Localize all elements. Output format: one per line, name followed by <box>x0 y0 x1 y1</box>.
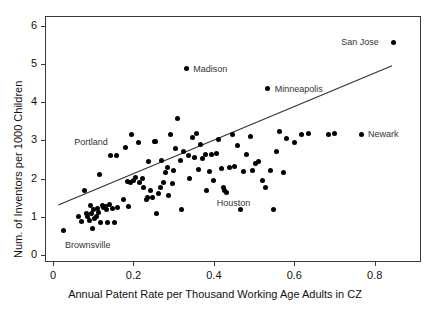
data-point <box>112 220 117 225</box>
x-tick-label: 0.4 <box>194 270 234 281</box>
data-point <box>159 158 164 163</box>
data-point <box>82 188 87 193</box>
data-point <box>235 143 240 148</box>
data-point <box>175 116 180 121</box>
data-point <box>108 153 113 158</box>
data-point <box>214 151 219 156</box>
data-point <box>196 167 201 172</box>
data-point <box>96 210 101 215</box>
data-point <box>332 131 337 136</box>
data-point <box>97 172 102 177</box>
x-tick-mark <box>375 262 376 266</box>
data-point <box>158 185 163 190</box>
data-point <box>268 168 273 173</box>
x-tick-mark <box>214 262 215 266</box>
data-point <box>194 131 199 136</box>
data-point <box>207 169 212 174</box>
point-label-houston: Houston <box>217 199 251 208</box>
data-point <box>156 191 161 196</box>
y-tick-mark <box>41 26 45 27</box>
x-axis-title: Annual Patent Rate per Thousand Working … <box>0 288 430 300</box>
data-point <box>391 40 396 45</box>
scatter-plot-figure: San JoseMadisonMinneapolisNewarkPortland… <box>0 0 430 311</box>
data-point <box>136 140 141 145</box>
x-tick-label: 0 <box>33 270 73 281</box>
data-point <box>184 66 189 71</box>
data-point <box>61 228 66 233</box>
y-tick-label: 5 <box>11 58 37 69</box>
data-point <box>154 211 159 216</box>
data-point <box>90 226 95 231</box>
data-point <box>98 220 103 225</box>
data-point <box>281 170 286 175</box>
x-tick-label: 0.8 <box>355 270 395 281</box>
data-point <box>263 185 268 190</box>
data-point <box>179 207 184 212</box>
data-point <box>260 178 265 183</box>
point-label-madison: Madison <box>193 65 227 74</box>
x-tick-mark <box>53 262 54 266</box>
point-label-newark: Newark <box>368 130 399 139</box>
y-axis-title: Num. of Inventors per 1000 Children <box>12 81 24 258</box>
data-point <box>284 136 289 141</box>
point-label-minneapolis: Minneapolis <box>275 85 323 94</box>
data-point <box>359 132 364 137</box>
x-tick-mark <box>294 262 295 266</box>
data-point <box>170 181 175 186</box>
data-point <box>204 188 209 193</box>
x-tick-mark <box>133 262 134 266</box>
data-point <box>292 140 297 145</box>
x-tick-label: 0.2 <box>113 270 153 281</box>
data-point <box>140 176 145 181</box>
y-tick-label: 6 <box>11 20 37 31</box>
data-point <box>104 207 109 212</box>
y-tick-mark <box>41 140 45 141</box>
y-tick-mark <box>41 255 45 256</box>
regression-line <box>58 66 392 205</box>
data-point <box>87 218 92 223</box>
data-point <box>165 165 170 170</box>
y-tick-mark <box>41 179 45 180</box>
data-point <box>186 153 191 158</box>
data-point <box>198 142 203 147</box>
y-tick-mark <box>41 64 45 65</box>
x-tick-label: 0.6 <box>274 270 314 281</box>
data-point <box>203 152 208 157</box>
data-point <box>190 135 195 140</box>
data-point <box>178 158 183 163</box>
data-point <box>271 207 276 212</box>
data-point <box>192 155 197 160</box>
y-tick-mark <box>41 217 45 218</box>
point-label-portland: Portland <box>74 138 108 147</box>
data-point <box>181 149 186 154</box>
data-point <box>274 149 279 154</box>
data-point <box>219 166 224 171</box>
data-point <box>161 180 166 185</box>
point-label-brownsville: Brownsville <box>65 241 111 250</box>
point-label-san-jose: San Jose <box>341 38 379 47</box>
y-tick-mark <box>41 102 45 103</box>
data-point <box>248 134 253 139</box>
data-point <box>230 132 235 137</box>
